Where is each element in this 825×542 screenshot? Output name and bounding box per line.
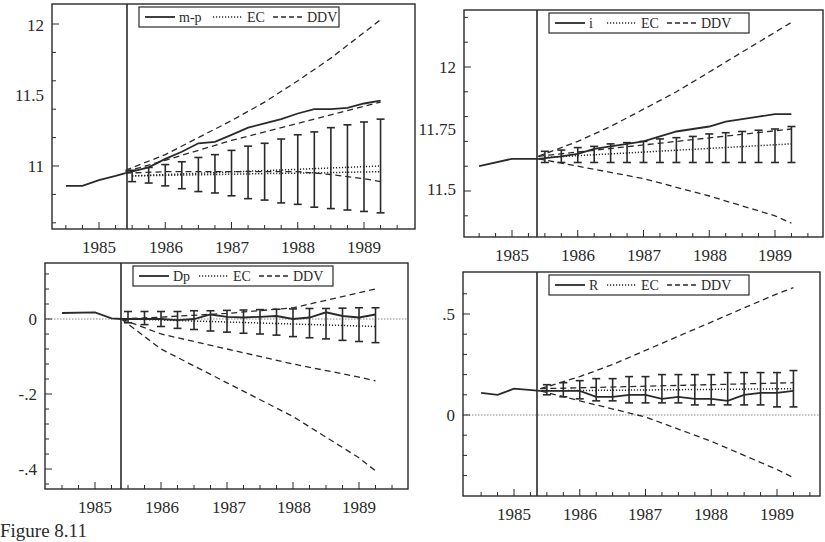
legend-label: EC <box>641 278 659 293</box>
y-tick-label: 11 <box>28 157 44 176</box>
plot-frame <box>463 272 820 496</box>
x-tick-label: 1987 <box>628 505 663 524</box>
series-i <box>538 114 791 159</box>
y-tick-label: 0 <box>447 406 456 425</box>
legend-label: EC <box>641 16 659 31</box>
x-tick-label: 1989 <box>760 505 794 524</box>
series-ec <box>132 166 381 176</box>
history-line <box>62 312 121 319</box>
legend-label: DDV <box>307 10 337 25</box>
error-bar <box>289 309 297 337</box>
error-bar <box>240 310 248 333</box>
series-ddv-upper <box>538 22 791 156</box>
history-line <box>481 389 540 395</box>
error-bar <box>343 125 351 210</box>
y-tick-label: .5 <box>442 305 455 324</box>
error-bar <box>273 309 281 335</box>
error-bar <box>178 162 186 189</box>
series-ddv-mid <box>126 102 381 172</box>
legend-label: DDV <box>701 278 731 293</box>
y-tick-label: 12 <box>27 16 44 35</box>
error-bar <box>705 134 713 163</box>
x-tick-label: 1986 <box>563 505 597 524</box>
error-bar <box>559 383 567 397</box>
x-tick-label: 1989 <box>758 246 792 265</box>
legend-label: EC <box>247 10 265 25</box>
x-tick-label: 1985 <box>78 498 112 517</box>
y-tick-label: 12 <box>439 58 456 77</box>
panel-dp: 19851986198719881989-.4-.20DpECDDV <box>19 263 408 517</box>
series-ddv-mid <box>540 383 793 389</box>
history-line <box>479 159 538 166</box>
error-bar <box>377 119 385 213</box>
series-ec <box>545 144 792 158</box>
y-tick-label: 11.75 <box>418 120 456 139</box>
legend: m-pECDDV <box>139 7 339 27</box>
error-bar <box>190 311 198 330</box>
history-line <box>66 173 126 186</box>
x-tick-label: 1987 <box>212 498 247 517</box>
x-tick-label: 1985 <box>495 246 529 265</box>
error-bar <box>372 308 380 343</box>
series-ddv-lower <box>121 319 375 471</box>
error-bar <box>642 377 650 403</box>
legend: RECDDV <box>549 275 749 295</box>
series-ddv-upper <box>126 20 381 171</box>
plot-frame <box>464 10 823 237</box>
figure-caption: Figure 8.11 <box>0 520 87 542</box>
error-bar <box>640 141 648 162</box>
error-bar <box>306 309 314 338</box>
panel-i: 1985198619871988198911.511.7512iECDDV <box>418 10 823 265</box>
error-bar <box>773 373 781 407</box>
x-tick-label: 1986 <box>145 498 179 517</box>
error-bar <box>738 131 746 162</box>
error-bar <box>211 155 219 193</box>
legend: DpECDDV <box>133 266 333 286</box>
error-bar <box>339 308 347 340</box>
legend-label: EC <box>233 269 251 284</box>
error-bar <box>674 375 682 403</box>
error-bar <box>244 146 252 199</box>
error-bar <box>228 150 236 195</box>
error-bar <box>256 310 264 334</box>
x-tick-label: 1989 <box>347 238 381 257</box>
error-bar <box>740 373 748 405</box>
legend-label: DDV <box>293 269 323 284</box>
y-tick-label: -.2 <box>19 385 37 404</box>
panel-r: 198519861987198819890.5RECDDV <box>442 272 820 524</box>
series-ec <box>128 319 376 327</box>
legend-label: R <box>589 278 599 293</box>
legend-label: i <box>589 16 593 31</box>
series-ddv-mid <box>121 319 375 381</box>
error-bar <box>310 132 318 207</box>
error-bar <box>707 375 715 405</box>
series-ddv-lower <box>540 391 793 478</box>
x-tick-label: 1985 <box>82 238 116 257</box>
x-tick-label: 1988 <box>277 498 311 517</box>
plot-frame <box>45 263 408 489</box>
error-bar <box>277 139 285 203</box>
y-tick-label: 0 <box>29 310 38 329</box>
legend: iECDDV <box>549 13 749 33</box>
x-tick-label: 1985 <box>497 505 531 524</box>
x-tick-label: 1989 <box>342 498 376 517</box>
x-tick-label: 1988 <box>281 238 315 257</box>
legend-label: DDV <box>701 16 731 31</box>
legend-label: Dp <box>173 269 190 284</box>
x-tick-label: 1987 <box>627 246 662 265</box>
series-ddv-upper <box>540 288 793 389</box>
series-ddv-lower <box>538 159 791 223</box>
panel-mp: 198519861987198819891111.512m-pECDDV <box>15 4 415 257</box>
x-tick-label: 1988 <box>694 505 728 524</box>
y-tick-label: 11.5 <box>427 180 456 199</box>
x-tick-label: 1986 <box>561 246 595 265</box>
x-tick-label: 1988 <box>693 246 727 265</box>
x-tick-label: 1987 <box>215 238 250 257</box>
error-bar <box>355 308 363 342</box>
series-ec <box>547 389 794 391</box>
error-bar <box>145 167 153 183</box>
error-bar <box>771 129 779 162</box>
y-tick-label: 11.5 <box>15 86 44 105</box>
error-bar <box>576 381 584 399</box>
